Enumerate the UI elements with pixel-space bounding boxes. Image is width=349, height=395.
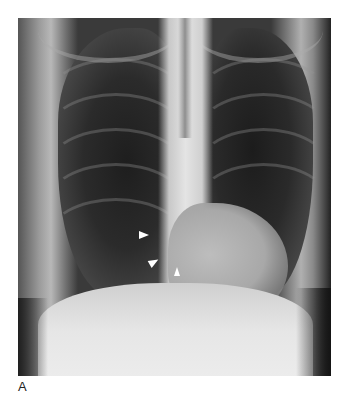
- panel-label: A: [18, 380, 27, 393]
- arrowhead-icon: [174, 267, 180, 276]
- costophrenic-angle-right: [296, 288, 331, 376]
- trachea: [178, 18, 192, 138]
- arrowhead-icon: [139, 231, 149, 239]
- diaphragm-abdomen: [38, 283, 313, 376]
- costophrenic-angle-left: [18, 298, 48, 376]
- chest-xray-image: [18, 18, 331, 376]
